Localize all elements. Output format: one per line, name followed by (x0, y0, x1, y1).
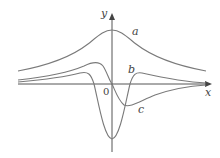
origin-label: 0 (103, 86, 109, 97)
curve-c-label: c (138, 103, 144, 116)
curve-a-label: a (132, 25, 139, 38)
curve-b-label: b (128, 63, 135, 76)
x-axis-label: x (205, 86, 212, 99)
function-plot: y x 0 a b c (0, 0, 220, 158)
y-axis-label: y (100, 7, 108, 20)
y-axis-arrow-icon (109, 13, 115, 20)
